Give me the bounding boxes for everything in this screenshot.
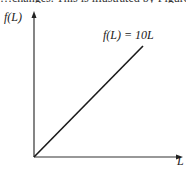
y-axis-arrow-icon (32, 11, 37, 18)
equation-annotation: f(L) = 10L (103, 28, 154, 43)
x-axis-label: L (177, 154, 184, 169)
series-line-f-of-L (34, 46, 143, 157)
y-axis-label: f(L) (4, 10, 22, 25)
y-axis (32, 11, 37, 157)
x-axis (34, 155, 183, 160)
chart-canvas (0, 0, 186, 171)
